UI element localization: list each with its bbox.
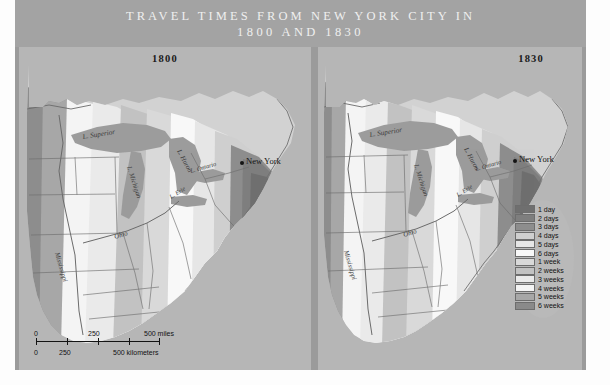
scale-miles-start: 0 bbox=[34, 330, 38, 337]
legend-label: 3 weeks bbox=[538, 276, 564, 283]
panel-year-label-1800: 1800 bbox=[19, 53, 311, 64]
scale-bar-kilometers: 0 250 500 kilometers bbox=[33, 349, 213, 360]
scale-km-end: 500 kilometers bbox=[113, 349, 159, 356]
city-marker-new-york bbox=[513, 159, 517, 163]
legend-swatch bbox=[515, 214, 535, 222]
legend-entry: 1 day bbox=[504, 205, 582, 214]
legend-label: 5 days bbox=[538, 241, 559, 248]
legend-label: 2 weeks bbox=[538, 267, 564, 274]
panel-year-label-1830: 1830 bbox=[318, 53, 582, 64]
legend-swatch bbox=[515, 258, 535, 266]
scale-tick-0 bbox=[36, 338, 37, 345]
legend-entry: 2 weeks bbox=[504, 266, 582, 275]
legend-label: 6 days bbox=[538, 250, 559, 257]
legend-entry: 4 weeks bbox=[504, 284, 582, 293]
scale-km-mid: 250 bbox=[59, 349, 71, 356]
map-graphic-1800: L. Superior L. Michigan L. Huron L. Erie… bbox=[19, 47, 311, 370]
legend-label: 1 week bbox=[538, 258, 560, 265]
scale-miles-end: 500 miles bbox=[144, 330, 174, 337]
map-plate: TRAVEL TIMES FROM NEW YORK CITY IN 1800 … bbox=[15, 0, 586, 370]
map-panel-1800: 1800 bbox=[19, 47, 311, 370]
legend-swatch bbox=[515, 302, 535, 310]
legend-swatch bbox=[515, 284, 535, 292]
city-marker-new-york bbox=[240, 161, 244, 165]
legend-entry: 5 weeks bbox=[504, 293, 582, 302]
legend-label: 6 weeks bbox=[538, 302, 564, 309]
figure-title-line-2: 1800 AND 1830 bbox=[237, 24, 364, 40]
scale-tick-km-500 bbox=[129, 338, 130, 345]
legend-label: 2 days bbox=[538, 215, 559, 222]
legend-swatch bbox=[515, 232, 535, 240]
scale-bar-miles: 0 250 500 miles bbox=[33, 330, 213, 341]
legend-label: 1 day bbox=[538, 206, 555, 213]
legend-entry-list: 1 day2 days3 days4 days5 days6 days1 wee… bbox=[504, 205, 582, 310]
city-label-new-york: New York bbox=[246, 156, 281, 166]
legend-label: 3 days bbox=[538, 223, 559, 230]
scale-tick-km-250 bbox=[67, 338, 68, 345]
figure-root: TRAVEL TIMES FROM NEW YORK CITY IN 1800 … bbox=[0, 0, 610, 385]
scale-miles-mid: 250 bbox=[88, 330, 100, 337]
legend-entry: 4 days bbox=[504, 231, 582, 240]
legend-entry: 2 days bbox=[504, 214, 582, 223]
legend-entry: 6 weeks bbox=[504, 301, 582, 310]
map-legend: 1 day2 days3 days4 days5 days6 days1 wee… bbox=[504, 200, 582, 318]
legend-swatch bbox=[515, 223, 535, 231]
legend-label: 5 weeks bbox=[538, 293, 564, 300]
legend-entry: 3 days bbox=[504, 223, 582, 232]
scale-tick-500 bbox=[159, 338, 160, 345]
legend-entry: 3 weeks bbox=[504, 275, 582, 284]
legend-entry: 5 days bbox=[504, 240, 582, 249]
figure-title-line-1: TRAVEL TIMES FROM NEW YORK CITY IN bbox=[126, 8, 475, 24]
scale-tick-250 bbox=[98, 338, 99, 345]
legend-swatch bbox=[515, 275, 535, 283]
legend-swatch bbox=[515, 240, 535, 248]
legend-entry: 1 week bbox=[504, 258, 582, 267]
city-label-new-york: New York bbox=[519, 154, 554, 164]
scale-km-start: 0 bbox=[34, 349, 38, 356]
legend-label: 4 days bbox=[538, 232, 559, 239]
legend-swatch bbox=[515, 267, 535, 275]
figure-title-banner: TRAVEL TIMES FROM NEW YORK CITY IN 1800 … bbox=[15, 0, 586, 47]
scale-bar: 0 250 500 miles 0 250 500 kilometers bbox=[33, 330, 213, 364]
legend-label: 4 weeks bbox=[538, 285, 564, 292]
legend-entry: 6 days bbox=[504, 249, 582, 258]
legend-swatch bbox=[515, 205, 535, 213]
legend-swatch bbox=[515, 249, 535, 257]
legend-swatch bbox=[515, 293, 535, 301]
